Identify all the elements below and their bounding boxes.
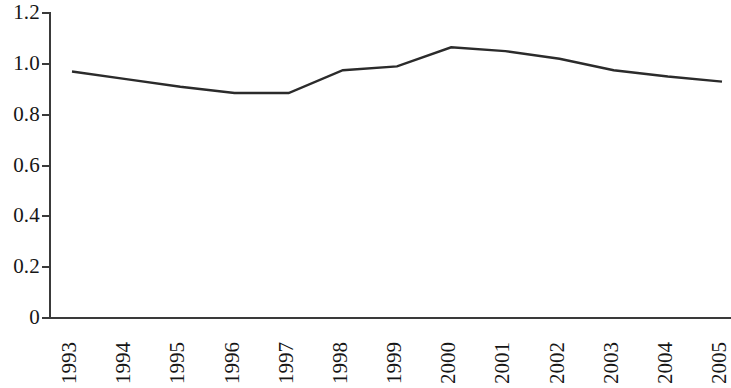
y-axis-tick-mark (42, 114, 50, 116)
y-axis-tick-mark (42, 215, 50, 217)
y-axis-tick-mark (42, 165, 50, 167)
series-layer (0, 0, 731, 388)
line-chart: 1.21.00.80.60.40.20 19931994199519961997… (0, 0, 731, 388)
y-axis-tick-mark (42, 266, 50, 268)
y-axis-tick-mark (42, 317, 50, 319)
y-axis-tick-mark (42, 12, 50, 14)
data-series-line (72, 47, 722, 93)
y-axis-tick-mark (42, 63, 50, 65)
